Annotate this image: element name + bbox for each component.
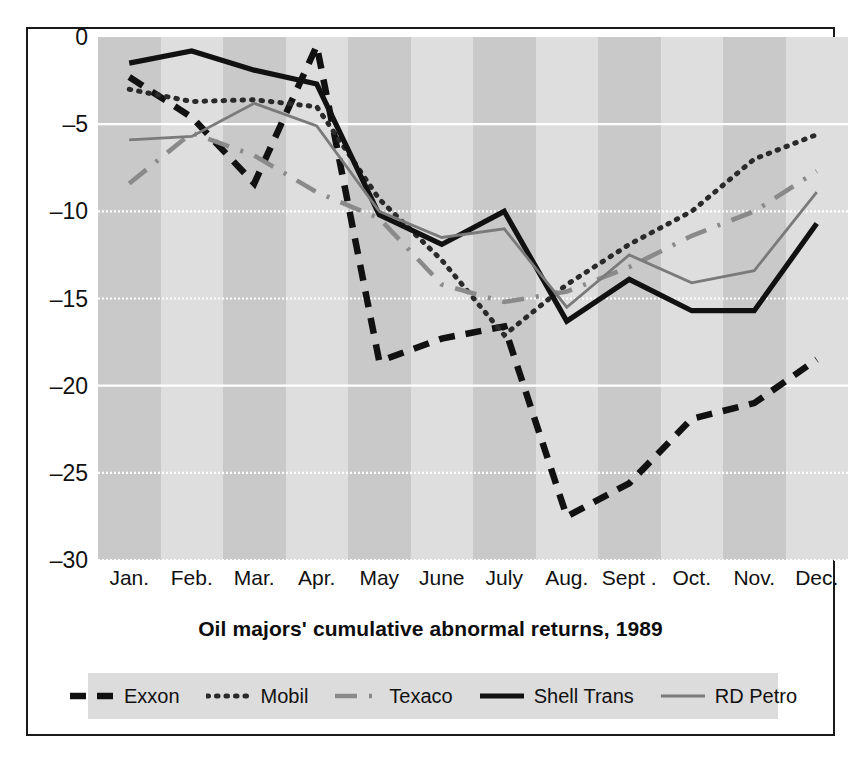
legend-label: Texaco — [389, 685, 452, 708]
series-line-texaco — [129, 133, 817, 302]
x-tick-label: Feb. — [171, 566, 213, 590]
series-line-rd-petro — [129, 103, 817, 307]
plot-area — [98, 37, 848, 560]
legend-item[interactable]: Texaco — [334, 685, 452, 708]
y-axis-ticks: 0–5–10–15–20–25–30 — [26, 37, 88, 560]
x-tick-label: May — [359, 566, 399, 590]
dash-dot-swatch — [334, 689, 380, 703]
legend-item[interactable]: Mobil — [206, 685, 309, 708]
x-tick-label: Aug. — [545, 566, 588, 590]
y-tick-label: –5 — [62, 111, 88, 138]
y-tick-label: –15 — [50, 285, 88, 312]
figure-container: Percentage return 0–5–10–15–20–25–30 Jan… — [0, 0, 861, 763]
chart-title: Oil majors' cumulative abnormal returns,… — [26, 617, 835, 641]
y-tick-label: 0 — [75, 24, 88, 51]
legend-item[interactable]: RD Petro — [660, 685, 797, 708]
x-tick-label: Oct. — [672, 566, 711, 590]
x-tick-label: Mar. — [234, 566, 275, 590]
y-tick-label: –20 — [50, 372, 88, 399]
legend-label: Exxon — [124, 685, 180, 708]
x-axis-ticks: Jan.Feb.Mar.Apr.MayJuneJulyAug.Sept .Oct… — [98, 566, 848, 600]
solid-thin-swatch — [660, 689, 706, 703]
series-lines — [98, 37, 848, 560]
y-tick-label: –30 — [50, 547, 88, 574]
dashed-swatch — [69, 689, 115, 703]
y-tick-label: –10 — [50, 198, 88, 225]
dotted-swatch — [206, 689, 252, 703]
legend-label: Mobil — [261, 685, 309, 708]
solid-thick-swatch — [479, 689, 525, 703]
legend-item[interactable]: Shell Trans — [479, 685, 634, 708]
x-tick-label: Dec. — [795, 566, 838, 590]
chart-legend: ExxonMobilTexacoShell TransRD Petro — [88, 673, 778, 719]
legend-label: RD Petro — [715, 685, 797, 708]
x-tick-label: June — [419, 566, 465, 590]
x-tick-label: Sept . — [602, 566, 657, 590]
series-line-mobil — [129, 89, 817, 335]
x-tick-label: Apr. — [298, 566, 335, 590]
x-tick-label: Jan. — [109, 566, 149, 590]
x-tick-label: Nov. — [733, 566, 775, 590]
y-tick-label: –25 — [50, 459, 88, 486]
legend-label: Shell Trans — [534, 685, 634, 708]
legend-item[interactable]: Exxon — [69, 685, 180, 708]
x-tick-label: July — [486, 566, 523, 590]
series-line-shell-trans — [129, 51, 817, 321]
